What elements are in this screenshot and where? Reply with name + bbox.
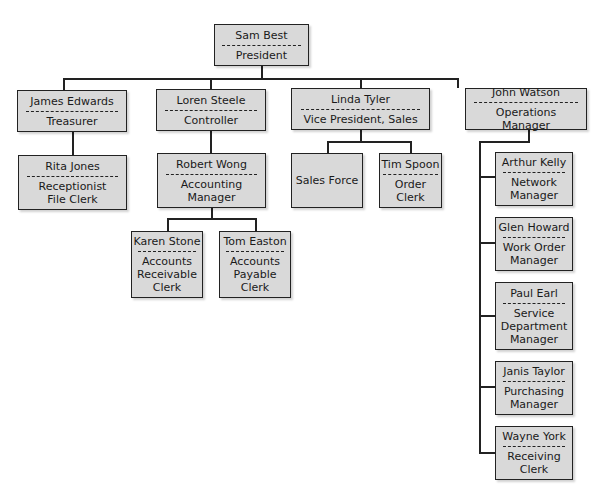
divider [383, 174, 437, 175]
org-node-receiving-clerk: Wayne York Receiving Clerk [495, 426, 573, 480]
node-title: Receiving Clerk [507, 450, 560, 476]
node-title: Receptionist File Clerk [39, 180, 107, 206]
node-title: Service Department Manager [501, 307, 568, 346]
connector-line [479, 141, 530, 143]
divider [503, 303, 566, 304]
node-name: James Edwards [30, 95, 113, 108]
divider [474, 102, 577, 103]
org-node-accounts-payable: Tom Easton Accounts Payable Clerk [219, 231, 291, 298]
connector-line [410, 141, 412, 153]
connector-line [255, 218, 257, 231]
connector-line [479, 141, 481, 454]
org-node-controller: Loren Steele Controller [156, 89, 266, 131]
divider [26, 111, 118, 112]
org-node-vp-sales: Linda Tyler Vice President, Sales [291, 88, 430, 130]
node-name: Glen Howard [499, 221, 570, 234]
org-node-service-department-manager: Paul Earl Service Department Manager [495, 282, 573, 350]
connector-line [63, 78, 459, 80]
connector-line [167, 218, 169, 231]
connector-line [360, 130, 362, 141]
org-node-receptionist: Rita Jones Receptionist File Clerk [18, 155, 127, 210]
connector-line [327, 141, 329, 153]
node-title: Purchasing Manager [504, 385, 564, 411]
divider [166, 174, 257, 175]
node-name: Paul Earl [510, 287, 558, 300]
connector-line [479, 452, 495, 454]
node-name: Tom Easton [223, 235, 286, 248]
node-name: Tim Spoon [381, 158, 439, 171]
node-title: Work Order Manager [503, 241, 566, 267]
node-title: President [236, 49, 287, 62]
connector-line [327, 141, 411, 143]
org-node-operations-manager: John Watson Operations Manager [465, 88, 587, 130]
divider [226, 251, 283, 252]
org-node-accounts-receivable: Karen Stone Accounts Receivable Clerk [131, 231, 203, 298]
node-title: Network Manager [510, 176, 558, 202]
divider [503, 237, 566, 238]
divider [503, 172, 566, 173]
node-title: Accounts Payable Clerk [230, 255, 280, 294]
connector-line [210, 131, 212, 153]
org-node-accounting-manager: Robert Wong Accounting Manager [157, 153, 266, 208]
node-name: Arthur Kelly [502, 156, 566, 169]
node-title: Operations Manager [470, 106, 582, 132]
divider [165, 110, 257, 111]
org-node-work-order-manager: Glen Howard Work Order Manager [495, 217, 573, 271]
node-title: Accounts Receivable Clerk [137, 255, 197, 294]
node-name: Linda Tyler [331, 93, 390, 106]
divider [27, 176, 118, 177]
node-name: Rita Jones [45, 160, 100, 173]
divider [301, 109, 420, 110]
org-node-purchasing-manager: Janis Taylor Purchasing Manager [495, 361, 573, 415]
node-title: Controller [184, 114, 238, 127]
connector-line [479, 315, 495, 317]
divider [138, 251, 195, 252]
connector-line [210, 78, 212, 89]
connector-line [211, 208, 213, 218]
connector-line [261, 66, 263, 78]
node-name: Janis Taylor [503, 365, 565, 378]
connector-line [479, 386, 495, 388]
node-title: Accounting Manager [181, 178, 242, 204]
connector-line [479, 242, 495, 244]
divider [503, 381, 566, 382]
connector-line [479, 176, 495, 178]
divider [503, 446, 566, 447]
node-name: Loren Steele [177, 94, 246, 107]
connector-line [457, 78, 459, 88]
connector-line [360, 78, 362, 88]
org-node-order-clerk: Tim Spoon Order Clerk [379, 153, 442, 208]
connector-line [72, 132, 74, 155]
node-name: John Watson [492, 86, 560, 99]
org-node-sales-force: Sales Force [291, 153, 363, 208]
org-node-treasurer: James Edwards Treasurer [17, 90, 127, 132]
connector-line [167, 218, 256, 220]
node-title: Treasurer [46, 115, 97, 128]
node-name: Karen Stone [133, 235, 200, 248]
node-title: Order Clerk [381, 178, 440, 204]
node-name: Sam Best [235, 29, 287, 42]
divider [222, 45, 300, 46]
org-node-network-manager: Arthur Kelly Network Manager [495, 152, 573, 206]
node-title: Vice President, Sales [303, 113, 417, 126]
connector-line [63, 78, 65, 90]
node-name: Wayne York [502, 430, 566, 443]
node-name: Robert Wong [176, 158, 247, 171]
node-name: Sales Force [296, 174, 359, 187]
org-node-president: Sam Best President [214, 24, 309, 66]
